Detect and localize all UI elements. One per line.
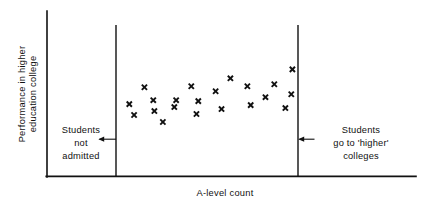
scatter-point [127, 102, 132, 107]
scatter-point [290, 67, 295, 72]
scatter-point [213, 89, 218, 94]
scatter-point [263, 95, 268, 100]
y-axis-label: Performance in higher education college [17, 46, 38, 143]
scatter-point [160, 119, 165, 124]
scatter-point [272, 82, 277, 87]
left-annotation-line2: not [74, 138, 88, 148]
x-axis-label: A-level count [197, 188, 254, 198]
scatter-point [152, 108, 157, 113]
scatter-point [245, 84, 250, 89]
scatter-point [172, 105, 177, 110]
scatter-point [142, 85, 147, 90]
left-annotation-text: Students not admitted [62, 125, 100, 161]
y-axis-label-line1: Performance in higher [17, 46, 27, 143]
left-annotation-line1: Students [62, 125, 100, 135]
scatter-point [228, 76, 233, 81]
scatter-point [131, 112, 136, 117]
scatter-point [196, 99, 201, 104]
y-axis-label-line2: education college [28, 56, 38, 133]
scatter-point [194, 111, 199, 116]
chart-canvas: Performance in higher education college … [0, 0, 432, 203]
right-annotation-text: Students go to 'higher' colleges [333, 125, 388, 161]
scatter-point [283, 105, 288, 110]
scatter-point [248, 103, 253, 108]
left-annotation-arrow [98, 137, 116, 142]
left-annotation-line3: admitted [62, 151, 99, 161]
right-annotation-line2: go to 'higher' [333, 138, 388, 148]
right-annotation-line3: colleges [343, 151, 379, 161]
right-annotation-arrow [298, 137, 314, 142]
scatter-point [289, 92, 294, 97]
right-annotation-line1: Students [342, 125, 380, 135]
scatter-chart-figure: Performance in higher education college … [0, 0, 432, 203]
scatter-point [151, 98, 156, 103]
scatter-marker-group [127, 67, 295, 125]
scatter-point [219, 106, 224, 111]
scatter-point [189, 84, 194, 89]
scatter-point [174, 98, 179, 103]
